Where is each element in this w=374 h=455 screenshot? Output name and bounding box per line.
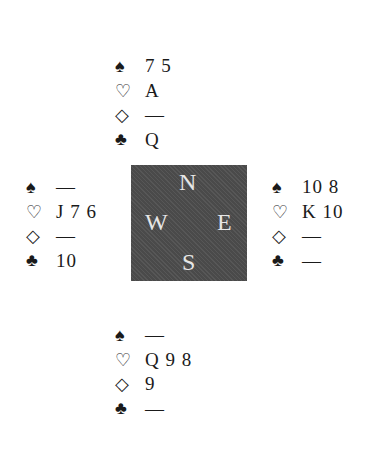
diamond-icon: ◇ bbox=[26, 225, 56, 247]
west-clubs: 10 bbox=[56, 250, 77, 272]
east-hearts-row: ♡K 10 bbox=[272, 200, 343, 225]
west-hearts: J 7 6 bbox=[56, 201, 97, 223]
compass-table: N W E S bbox=[131, 165, 247, 281]
west-spades-row: ♠— bbox=[26, 175, 97, 200]
spade-icon: ♠ bbox=[115, 325, 145, 346]
south-hearts: Q 9 8 bbox=[145, 349, 192, 371]
heart-icon: ♡ bbox=[26, 201, 56, 223]
north-diamonds-row: ◇— bbox=[115, 103, 172, 128]
north-spades: 7 5 bbox=[145, 55, 172, 77]
east-diamonds: — bbox=[302, 225, 322, 247]
compass-west: W bbox=[145, 209, 168, 236]
diamond-icon: ◇ bbox=[115, 104, 145, 126]
compass-east: E bbox=[217, 209, 232, 236]
west-hearts-row: ♡J 7 6 bbox=[26, 200, 97, 225]
east-hand: ♠10 8 ♡K 10 ◇— ♣— bbox=[272, 175, 343, 273]
north-clubs-row: ♣Q bbox=[115, 128, 172, 153]
north-hearts-row: ♡A bbox=[115, 79, 172, 104]
south-spades: — bbox=[145, 324, 165, 346]
diamond-icon: ◇ bbox=[272, 225, 302, 247]
club-icon: ♣ bbox=[26, 250, 56, 271]
compass-south: S bbox=[182, 249, 195, 276]
east-hearts: K 10 bbox=[302, 201, 343, 223]
north-spades-row: ♠7 5 bbox=[115, 54, 172, 79]
east-spades: 10 8 bbox=[302, 176, 339, 198]
east-spades-row: ♠10 8 bbox=[272, 175, 343, 200]
compass-north: N bbox=[179, 169, 196, 196]
west-hand: ♠— ♡J 7 6 ◇— ♣10 bbox=[26, 175, 97, 273]
club-icon: ♣ bbox=[115, 398, 145, 419]
east-clubs-row: ♣— bbox=[272, 249, 343, 274]
club-icon: ♣ bbox=[272, 250, 302, 271]
east-diamonds-row: ◇— bbox=[272, 224, 343, 249]
south-diamonds-row: ◇9 bbox=[115, 372, 192, 397]
heart-icon: ♡ bbox=[115, 80, 145, 102]
south-hand: ♠— ♡Q 9 8 ◇9 ♣— bbox=[115, 323, 192, 421]
heart-icon: ♡ bbox=[115, 349, 145, 371]
west-clubs-row: ♣10 bbox=[26, 249, 97, 274]
north-hand: ♠7 5 ♡A ◇— ♣Q bbox=[115, 54, 172, 152]
south-clubs-row: ♣— bbox=[115, 397, 192, 422]
south-hearts-row: ♡Q 9 8 bbox=[115, 348, 192, 373]
spade-icon: ♠ bbox=[26, 177, 56, 198]
west-diamonds: — bbox=[56, 225, 76, 247]
south-spades-row: ♠— bbox=[115, 323, 192, 348]
diamond-icon: ◇ bbox=[115, 373, 145, 395]
spade-icon: ♠ bbox=[115, 56, 145, 77]
north-diamonds: — bbox=[145, 104, 165, 126]
club-icon: ♣ bbox=[115, 129, 145, 150]
spade-icon: ♠ bbox=[272, 177, 302, 198]
south-clubs: — bbox=[145, 398, 165, 420]
north-hearts: A bbox=[145, 80, 160, 102]
west-diamonds-row: ◇— bbox=[26, 224, 97, 249]
heart-icon: ♡ bbox=[272, 201, 302, 223]
north-clubs: Q bbox=[145, 129, 160, 151]
west-spades: — bbox=[56, 176, 76, 198]
east-clubs: — bbox=[302, 250, 322, 272]
south-diamonds: 9 bbox=[145, 373, 156, 395]
